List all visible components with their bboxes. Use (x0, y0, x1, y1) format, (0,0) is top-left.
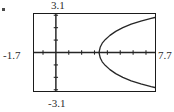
plot-frame (33, 13, 156, 92)
plot-canvas (34, 14, 155, 91)
window-label-ymax: 3.1 (51, 0, 65, 11)
window-label-ymin: -3.1 (48, 98, 65, 109)
bullet-mark-icon (2, 8, 5, 11)
curve-upper-branch (99, 17, 155, 52)
window-label-xmin: -1.7 (3, 50, 20, 61)
curve-lower-branch (99, 53, 155, 88)
axes-group (34, 14, 155, 91)
calculator-screenshot: 3.1 -3.1 -1.7 7.7 (0, 0, 174, 112)
window-label-xmax: 7.7 (158, 50, 172, 61)
